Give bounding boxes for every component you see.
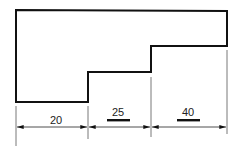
dimension-underline-40 [177, 119, 200, 121]
dimension-label-20: 20 [50, 114, 62, 126]
part-outline [16, 10, 227, 102]
dimension-label-25: 25 [112, 106, 124, 118]
dimension-drawing: 20 25 40 [0, 0, 251, 155]
dimension-label-40: 40 [182, 106, 194, 118]
dimension-underline-25 [107, 119, 130, 121]
extension-lines [16, 50, 227, 146]
